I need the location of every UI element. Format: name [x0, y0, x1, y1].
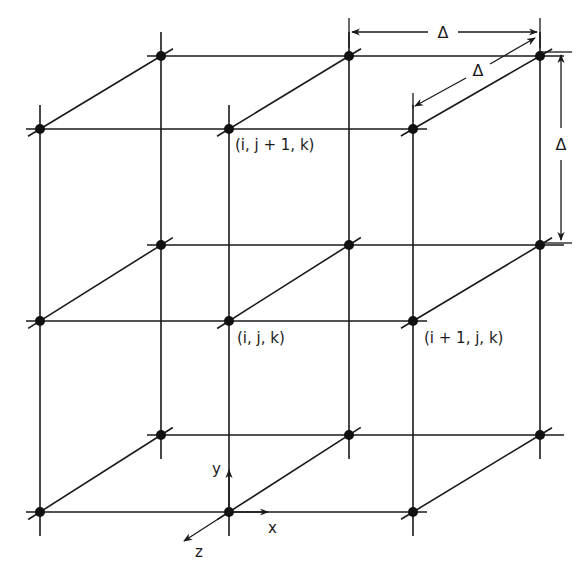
grid-node [408, 507, 418, 517]
dimension-horizontal: Δ [349, 18, 540, 48]
grid-lines [26, 32, 564, 536]
depth-line [217, 49, 361, 137]
grid-node [156, 51, 166, 61]
grid-diagram: Δ Δ Δ y x z (i, j + 1, k) (i, j, k) (i + [0, 0, 588, 573]
grid-node [408, 316, 418, 326]
grid-node [535, 240, 545, 250]
depth-line [401, 428, 552, 520]
grid-node [35, 124, 45, 134]
grid-node [224, 316, 234, 326]
depth-line [217, 427, 361, 519]
delta-vertical-label: Δ [556, 135, 567, 154]
node-label-i-j1-k: (i, j + 1, k) [235, 136, 314, 154]
grid-node [35, 316, 45, 326]
grid-node [408, 124, 418, 134]
grid-svg: Δ Δ Δ y x z (i, j + 1, k) (i, j, k) (i + [0, 0, 588, 573]
delta-horizontal-label: Δ [438, 23, 449, 42]
depth-line [28, 238, 173, 329]
dimension-vertical: Δ [540, 52, 572, 243]
grid-node [344, 430, 354, 440]
node-label-i1-j-k: (i + 1, j, k) [424, 329, 503, 347]
depth-line [217, 238, 361, 329]
grid-node [344, 240, 354, 250]
grid-node [344, 51, 354, 61]
node-label-i-j-k: (i, j, k) [237, 329, 285, 347]
depth-line [28, 49, 173, 136]
grid-nodes [35, 51, 545, 517]
grid-node [156, 430, 166, 440]
axis-z-label: z [195, 543, 203, 561]
grid-node [35, 507, 45, 517]
delta-depth-label: Δ [473, 61, 484, 80]
grid-node [156, 240, 166, 250]
depth-line [401, 238, 552, 328]
grid-node [535, 430, 545, 440]
depth-line [28, 427, 173, 519]
axis-y-label: y [212, 460, 221, 478]
dimension-depth: Δ [413, 38, 535, 108]
axis-x-label: x [268, 519, 277, 537]
grid-node [224, 124, 234, 134]
